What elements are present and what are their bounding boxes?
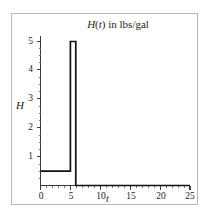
y-tick-label-3: 3 bbox=[21, 94, 33, 104]
y-tick-label-4: 4 bbox=[21, 65, 33, 75]
x-tick-label-15: 15 bbox=[122, 192, 140, 202]
x-tick-label-10: 10 bbox=[92, 192, 110, 202]
x-tick-label-5: 5 bbox=[62, 192, 80, 202]
step-function-curve bbox=[41, 42, 191, 186]
x-tick-label-25: 25 bbox=[181, 192, 199, 202]
chart-title: H(t) in lbs/gal bbox=[63, 18, 173, 30]
title-units: in lbs/gal bbox=[105, 18, 148, 30]
plot-canvas bbox=[0, 0, 210, 216]
y-tick-label-5: 5 bbox=[21, 37, 33, 47]
figure-container: H(t) in lbs/gal H t 1 2 3 4 5 0 5 10 15 … bbox=[0, 0, 210, 216]
title-variable-h: H bbox=[87, 18, 95, 30]
y-tick-label-1: 1 bbox=[21, 152, 33, 162]
x-tick-label-20: 20 bbox=[152, 192, 170, 202]
y-tick-label-2: 2 bbox=[21, 123, 33, 133]
x-tick-label-0: 0 bbox=[32, 192, 50, 202]
